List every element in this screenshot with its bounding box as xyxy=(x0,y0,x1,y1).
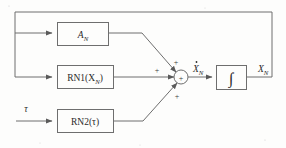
xdot-n-label: XN xyxy=(192,64,204,76)
block-rn1: RN1(XN) xyxy=(58,66,114,89)
sum-inner-plus: + xyxy=(179,74,184,83)
label-xdot-n: XN xyxy=(192,61,204,75)
wire-a-n-to-sum xyxy=(108,33,176,72)
block-diagram: AN RN1(XN) RN2(τ) ∫ + + + + τ XN xyxy=(0,0,286,148)
plus-top-sign: + xyxy=(174,58,179,67)
label-x-n-output: XN xyxy=(257,64,269,76)
tau-input-label: τ xyxy=(24,104,28,114)
block-rn2-label: RN2(τ) xyxy=(71,117,99,128)
x-dot-accent xyxy=(196,61,198,63)
block-rn2: RN2(τ) xyxy=(58,110,114,133)
label-tau-input: τ xyxy=(24,104,28,114)
block-a-n: AN xyxy=(58,23,109,46)
plus-bottom-sign: + xyxy=(175,92,180,101)
plus-left-sign: + xyxy=(155,66,160,75)
diagram-canvas: AN RN1(XN) RN2(τ) ∫ + + + + τ XN xyxy=(0,0,286,148)
x-n-output-label: XN xyxy=(257,64,269,76)
summing-junction: + + + + xyxy=(155,58,188,101)
wire-rn2-to-sum xyxy=(113,83,177,121)
block-integrator: ∫ xyxy=(217,66,247,90)
